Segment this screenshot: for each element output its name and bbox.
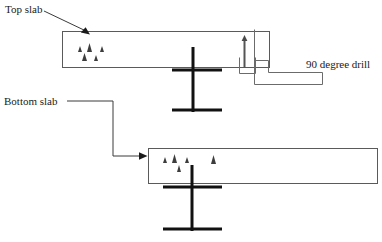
bottom-slab-leader-arrowhead-icon [139,152,148,160]
top-slab-leader-line [44,11,86,31]
engineering-diagram [0,0,382,242]
diagram-canvas: Top slab Bottom slab 90 degree drill [0,0,382,242]
top-slab-label: Top slab [5,4,42,15]
bottom-slab-rect [149,149,378,184]
bottom-slab-label: Bottom slab [4,96,57,107]
bottom-slab-leader-line [67,101,141,156]
top-slab-rect [63,32,270,68]
drill-label: 90 degree drill [306,59,370,70]
